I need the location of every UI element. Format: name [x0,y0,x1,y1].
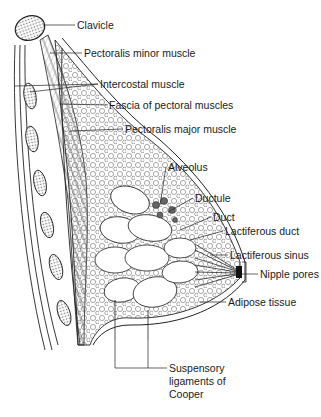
label-cooper: Suspensory ligaments of Cooper [169,362,239,401]
label-ductule: Ductule [195,192,231,204]
nipple [236,266,242,278]
label-lactiferous-sinus: Lactiferous sinus [230,249,309,261]
label-duct: Duct [213,211,235,223]
label-lactiferous-duct: Lactiferous duct [225,225,299,237]
label-pectoralis-major: Pectoralis major muscle [125,123,236,135]
label-pectoralis-minor: Pectoralis minor muscle [84,47,195,59]
label-nipple-pores: Nipple pores [260,268,319,280]
label-clavicle: Clavicle [77,19,114,31]
label-fascia: Fascia of pectoral muscles [109,99,233,111]
label-intercostal: Intercostal muscle [100,78,185,90]
label-alveolus: Alveolus [168,161,208,173]
label-adipose: Adipose tissue [228,296,296,308]
breast-anatomy-illustration [0,0,321,417]
